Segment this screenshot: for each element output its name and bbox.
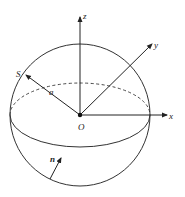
origin-point bbox=[78, 113, 82, 117]
x-axis-label: x bbox=[168, 111, 173, 121]
surface-point-label: S bbox=[16, 69, 21, 79]
origin-label: O bbox=[78, 122, 85, 132]
sphere-diagram: z y x O S a n bbox=[0, 0, 185, 197]
z-axis-label: z bbox=[82, 11, 87, 21]
diagram-canvas: z y x O S a n bbox=[0, 0, 185, 197]
radius-label: a bbox=[49, 87, 54, 97]
normal-label: n bbox=[50, 154, 55, 164]
y-axis-label: y bbox=[153, 40, 158, 50]
